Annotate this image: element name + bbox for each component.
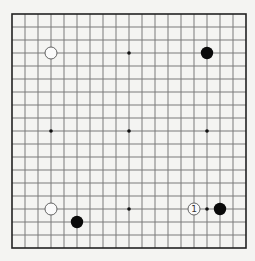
move-number-label: 1 [191, 204, 197, 214]
black-stone-icon [214, 203, 226, 215]
star-point [49, 129, 53, 133]
go-board: 1 [0, 0, 255, 261]
white-stone [45, 203, 57, 215]
star-point [205, 207, 209, 211]
black-stone [214, 203, 226, 215]
white-stone-icon [45, 47, 57, 59]
star-point [127, 129, 131, 133]
white-stone [45, 47, 57, 59]
black-stone [201, 47, 213, 59]
white-stone-icon [45, 203, 57, 215]
star-point [127, 51, 131, 55]
star-point [127, 207, 131, 211]
black-stone-icon [71, 216, 83, 228]
black-stone [71, 216, 83, 228]
stones-layer: 1 [45, 47, 226, 228]
white-stone: 1 [188, 203, 200, 215]
star-point [205, 129, 209, 133]
black-stone-icon [201, 47, 213, 59]
